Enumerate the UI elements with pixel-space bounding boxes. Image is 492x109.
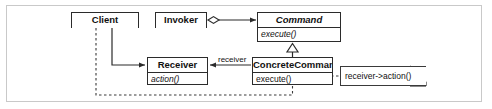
diagram-canvas: Receiver : association (solid, elbow) --… (0, 0, 492, 109)
aggregation-diamond-icon (208, 17, 219, 24)
note-text: receiver->action() (341, 67, 426, 86)
generalization-triangle-icon (287, 44, 298, 53)
note-receiver-action[interactable]: receiver->action() (340, 66, 426, 86)
edge-client-receiver (112, 28, 145, 65)
class-box-client[interactable]: Client (71, 12, 139, 28)
edge-invoker-command (208, 17, 256, 24)
edge-concretecommand-command (287, 44, 298, 58)
class-name-command: Command (258, 13, 340, 28)
edge-label-receiver: receiver (218, 55, 246, 64)
class-box-concretecommand[interactable]: ConcreteCommand execute() (252, 57, 333, 85)
class-box-receiver[interactable]: Receiver action() (147, 57, 208, 85)
class-operation-receiver-action: action() (148, 73, 207, 86)
class-box-invoker[interactable]: Invoker (155, 12, 207, 28)
class-name-invoker: Invoker (156, 13, 206, 28)
class-box-command[interactable]: Command execute() (257, 12, 341, 42)
class-name-concretecommand: ConcreteCommand (253, 58, 332, 73)
class-name-client: Client (72, 13, 138, 28)
class-operation-command-execute: execute() (258, 28, 340, 41)
class-name-receiver: Receiver (148, 58, 207, 73)
class-operation-concretecommand-execute: execute() (253, 73, 332, 86)
